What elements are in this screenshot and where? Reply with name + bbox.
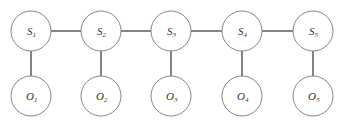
emission-edges xyxy=(31,51,313,76)
hmm-diagram: S1 S2 S3 S4 S5 O1 O2 O3 O4 O5 xyxy=(0,0,341,126)
